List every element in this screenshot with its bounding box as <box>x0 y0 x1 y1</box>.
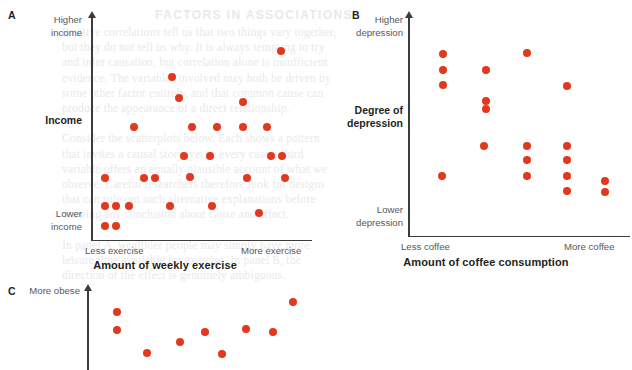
panel-a-y-top-label: Higher income <box>0 14 82 39</box>
panel-b-y-top-label: Higher depression <box>340 14 403 39</box>
data-point <box>439 81 447 89</box>
panel-a-plot-area <box>92 36 314 236</box>
panel-a-y-top-line1: Higher <box>54 14 82 25</box>
data-point <box>563 187 571 195</box>
data-point <box>166 202 174 210</box>
panel-b-y-title: Degree of depression <box>340 104 403 130</box>
data-point <box>267 152 275 160</box>
data-point <box>563 82 571 90</box>
data-point <box>206 152 214 160</box>
panel-b-x-right-label: More coffee <box>564 241 614 252</box>
data-point <box>113 308 121 316</box>
data-point <box>563 142 571 150</box>
data-point <box>101 202 109 210</box>
data-point <box>523 142 531 150</box>
panel-c: C More obese <box>0 280 330 370</box>
data-point <box>180 152 188 160</box>
panel-b: B Higher depression Lower depression Deg… <box>340 0 632 275</box>
data-point <box>143 349 151 357</box>
data-point <box>563 156 571 164</box>
panel-b-y-bot-line1: Lower <box>377 204 403 215</box>
panel-a-x-axis <box>91 240 312 241</box>
data-point <box>113 326 121 334</box>
data-point <box>175 94 183 102</box>
data-point <box>218 350 226 358</box>
data-point <box>176 338 184 346</box>
panel-b-x-title: Amount of coffee consumption <box>340 256 632 269</box>
data-point <box>277 47 285 55</box>
panel-b-y-bottom-label: Lower depression <box>340 204 403 229</box>
data-point <box>188 123 196 131</box>
panel-b-y-title-line2: depression <box>347 117 403 129</box>
panel-c-y-top-label: More obese <box>0 285 80 298</box>
data-point <box>482 105 490 113</box>
data-point <box>482 66 490 74</box>
panel-a: A Higher income Lower income Income Less… <box>0 0 330 275</box>
panel-b-x-axis <box>408 236 630 237</box>
panel-b-y-top-line1: Higher <box>375 14 403 25</box>
panel-a-x-right-label: More exercise <box>241 245 301 256</box>
data-point <box>523 156 531 164</box>
panel-b-y-title-line1: Degree of <box>355 104 403 116</box>
data-point <box>186 173 194 181</box>
panel-b-y-bot-line2: depression <box>356 217 403 228</box>
panel-a-y-top-line2: income <box>51 27 82 38</box>
panel-a-y-bot-line1: Lower <box>56 208 82 219</box>
figure-root: FACTORS IN ASSOCIATIONSPositive correlat… <box>0 0 632 370</box>
panel-b-y-top-line2: depression <box>356 27 403 38</box>
panel-b-plot-area <box>409 36 631 232</box>
data-point <box>168 73 176 81</box>
data-point <box>243 174 251 182</box>
panel-a-y-bottom-label: Lower income <box>0 208 82 233</box>
panel-b-x-left-label: Less coffee <box>401 241 450 252</box>
panel-a-y-title: Income <box>0 114 82 127</box>
data-point <box>269 328 277 336</box>
data-point <box>289 298 297 306</box>
data-point <box>101 222 109 230</box>
data-point <box>151 174 159 182</box>
data-point <box>112 222 120 230</box>
data-point <box>601 188 609 196</box>
panel-a-y-bot-line2: income <box>51 221 82 232</box>
panel-c-plot-area <box>88 294 298 370</box>
data-point <box>213 123 221 131</box>
data-point <box>208 202 216 210</box>
data-point <box>101 174 109 182</box>
data-point <box>439 50 447 58</box>
data-point <box>125 202 133 210</box>
data-point <box>482 97 490 105</box>
panel-a-x-title: Amount of weekly exercise <box>0 259 330 272</box>
panel-a-x-left-label: Less exercise <box>85 245 144 256</box>
data-point <box>480 142 488 150</box>
data-point <box>239 123 247 131</box>
data-point <box>255 209 263 217</box>
data-point <box>278 152 286 160</box>
data-point <box>439 66 447 74</box>
data-point <box>239 98 247 106</box>
data-point <box>563 172 571 180</box>
data-point <box>112 202 120 210</box>
data-point <box>130 123 138 131</box>
data-point <box>438 172 446 180</box>
data-point <box>523 172 531 180</box>
data-point <box>140 174 148 182</box>
data-point <box>242 325 250 333</box>
data-point <box>263 123 271 131</box>
data-point <box>523 49 531 57</box>
data-point <box>201 328 209 336</box>
data-point <box>601 177 609 185</box>
data-point <box>281 174 289 182</box>
